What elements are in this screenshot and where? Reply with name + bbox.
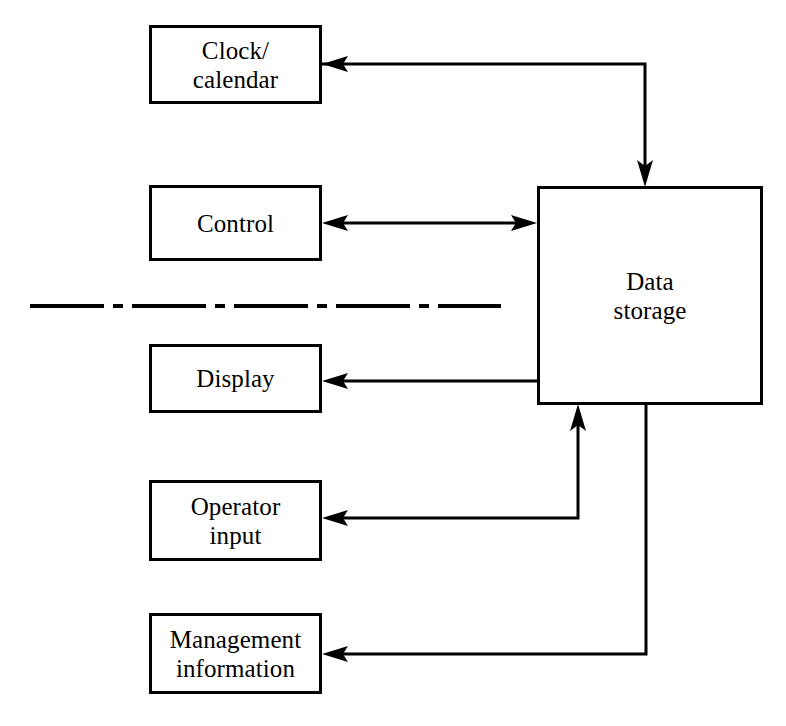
connector-storage-to-display — [322, 373, 537, 389]
node-operator-input[interactable]: Operator input — [149, 480, 322, 561]
connector-clock-to-storage — [322, 56, 653, 187]
node-control-label: Control — [193, 209, 278, 238]
connector-storage-to-management — [322, 405, 646, 662]
node-display-label: Display — [192, 364, 278, 393]
connector-control-to-storage — [322, 215, 537, 231]
connector-operator-input-to-storage — [322, 404, 586, 526]
node-management-information[interactable]: Management information — [149, 613, 322, 694]
node-clock-calendar-label: Clock/ calendar — [189, 36, 282, 94]
node-clock-calendar[interactable]: Clock/ calendar — [149, 25, 322, 104]
node-data-storage-label: Data storage — [610, 267, 691, 325]
node-data-storage[interactable]: Data storage — [537, 186, 763, 405]
node-management-information-label: Management information — [166, 625, 306, 683]
diagram-canvas: Clock/ calendar Control Display Operator… — [0, 0, 786, 726]
node-display[interactable]: Display — [149, 344, 322, 413]
node-control[interactable]: Control — [149, 185, 322, 261]
node-operator-input-label: Operator input — [187, 492, 285, 550]
